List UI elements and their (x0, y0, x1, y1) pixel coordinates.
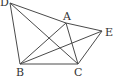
segment-AC (66, 23, 78, 64)
point-label-E: E (105, 26, 113, 39)
geometry-diagram: DAEBC (0, 0, 120, 78)
segment-DA (10, 3, 66, 23)
segment-BA (20, 23, 66, 64)
point-label-D: D (0, 0, 9, 9)
segment-AE (66, 23, 102, 31)
point-label-B: B (16, 66, 24, 78)
segments (10, 3, 102, 64)
segment-DB (10, 3, 20, 64)
point-label-C: C (74, 66, 82, 78)
point-label-A: A (62, 10, 72, 23)
